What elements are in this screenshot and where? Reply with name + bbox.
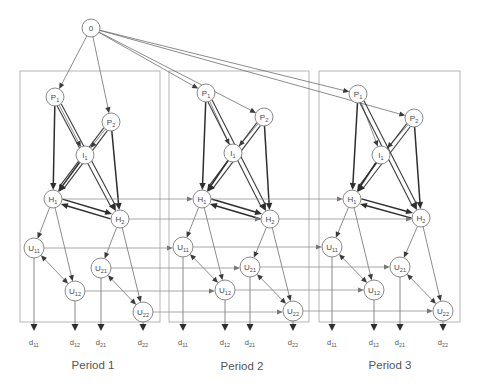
p3-edge-H2-U22 bbox=[423, 227, 439, 297]
p1-edge-U21-U22 bbox=[111, 279, 132, 301]
p1-node-P2: P2 bbox=[102, 113, 120, 131]
p1-node-U21: U21 bbox=[91, 258, 111, 278]
p2-edge-P1-H1 bbox=[203, 102, 206, 184]
carry-over-U11-p1-to-p2-arrowhead bbox=[167, 245, 173, 250]
node-label-subscript: 1 bbox=[233, 153, 236, 159]
output-label-d22: d22 bbox=[438, 338, 448, 348]
p2-edge-H2-U22-arrowhead bbox=[287, 295, 292, 302]
p1-output-arrowhead-d21 bbox=[98, 324, 105, 331]
p1-node-U22: U22 bbox=[133, 302, 153, 322]
p3-node-U22: U22 bbox=[433, 301, 453, 321]
output-label-subscript: 12 bbox=[373, 342, 379, 348]
p2-edge-P2-H2-arrowhead bbox=[266, 203, 272, 210]
p3-edge-H1-U11 bbox=[338, 207, 349, 233]
output-label-subscript: 22 bbox=[292, 342, 298, 348]
p3-node-P1: P1 bbox=[349, 85, 367, 103]
node-label-subscript: 12 bbox=[225, 290, 231, 296]
p3-node-P2: P2 bbox=[405, 109, 423, 127]
p1-output-arrowhead-d12 bbox=[72, 324, 79, 331]
p1-edge-H2-U21 bbox=[106, 227, 116, 254]
p1-node-H1: H1 bbox=[44, 190, 62, 208]
p1-edge-I1-H1 bbox=[62, 162, 80, 187]
p3-edge-U21-U22 bbox=[411, 278, 433, 301]
output-label-subscript: 11 bbox=[33, 342, 39, 348]
p3-edge-P2-H2 bbox=[415, 127, 420, 203]
p1-node-U12: U12 bbox=[65, 281, 85, 301]
p1-edge-P1-H1-arrowhead bbox=[50, 183, 56, 190]
root-node: 0 bbox=[82, 19, 100, 37]
carry-over-H2-p1-to-p2-arrowhead bbox=[255, 216, 261, 221]
p2-node-P2: P2 bbox=[255, 108, 273, 126]
node-label-subscript: 12 bbox=[75, 291, 81, 297]
carry-over-H1-p2-to-p3-arrowhead bbox=[337, 196, 343, 201]
node-label-subscript: 2 bbox=[415, 118, 418, 124]
output-label-subscript: 11 bbox=[331, 342, 337, 348]
p2-edge-H1-U11-arrowhead bbox=[187, 231, 192, 238]
node-label-subscript: 11 bbox=[183, 247, 189, 253]
period-3-box bbox=[319, 71, 460, 322]
output-label-subscript: 21 bbox=[249, 342, 255, 348]
p1-edge-P2-H2-arrowhead bbox=[115, 203, 121, 210]
p3-edge-H1-U12-arrowhead bbox=[368, 274, 373, 281]
p2-edge-H1-U12-arrowhead bbox=[219, 274, 224, 280]
p3-output-arrowhead-d12 bbox=[371, 324, 378, 331]
p2-edge-H2-U22 bbox=[272, 228, 289, 297]
p3-edge-H1-H2-forward bbox=[361, 199, 407, 212]
p3-edge-P1-I1 bbox=[361, 102, 376, 141]
p1-node-P1: P1 bbox=[46, 88, 64, 106]
root-to-p1-P2-edge-arrowhead bbox=[105, 107, 110, 113]
output-label-d12: d12 bbox=[70, 338, 80, 348]
p1-edge-P2-H2 bbox=[112, 131, 119, 204]
period-2-edges bbox=[180, 100, 297, 331]
carry-over-U22-p2-to-p3-arrowhead bbox=[427, 308, 433, 313]
p3-edge-H1-U12 bbox=[354, 208, 370, 276]
p2-edge-H1-U11 bbox=[189, 207, 199, 233]
p1-edge-P1-I1 bbox=[59, 105, 79, 143]
node-label-subscript: 12 bbox=[374, 290, 380, 296]
p2-node-H2: H2 bbox=[261, 210, 279, 228]
output-label-d21: d21 bbox=[245, 338, 255, 348]
output-label-subscript: 22 bbox=[142, 342, 148, 348]
node-label-subscript: 21 bbox=[250, 267, 256, 273]
period-2-label: Period 2 bbox=[221, 360, 264, 372]
node-label-subscript: 2 bbox=[112, 122, 115, 128]
p3-edge-H1-H2-backward bbox=[366, 206, 412, 219]
p2-edge-P2-H2 bbox=[265, 126, 270, 204]
output-label-d11: d11 bbox=[178, 338, 188, 348]
p2-edge-U11-U12 bbox=[194, 258, 215, 280]
output-label-subscript: 21 bbox=[399, 342, 405, 348]
p1-edge-H1-U12-arrowhead bbox=[69, 275, 74, 282]
edges bbox=[31, 30, 447, 331]
p3-edge-P2-H2-arrowhead bbox=[417, 202, 423, 209]
node-label-subscript: 11 bbox=[34, 248, 40, 254]
period-1-nodes: P1P2I1H1H2U11U12U21U22 bbox=[24, 88, 153, 322]
node-label-subscript: 22 bbox=[443, 311, 449, 317]
node-label-subscript: 1 bbox=[56, 97, 59, 103]
p3-output-arrowhead-d11 bbox=[329, 324, 336, 331]
p3-node-H1: H1 bbox=[343, 190, 361, 208]
p2-output-arrowhead-d21 bbox=[247, 324, 254, 331]
p3-node-U11: U11 bbox=[322, 237, 342, 257]
period-1-label: Period 1 bbox=[72, 359, 115, 371]
p3-edge-P1-H1 bbox=[353, 103, 358, 184]
p2-edge-H2-U21 bbox=[256, 227, 267, 253]
output-label-d21: d21 bbox=[395, 338, 405, 348]
p3-node-I1: I1 bbox=[372, 146, 390, 164]
p2-output-arrowhead-d11 bbox=[180, 324, 187, 331]
p3-edge-U11-U12 bbox=[343, 258, 364, 280]
p1-node-U11: U11 bbox=[24, 238, 44, 258]
node-label-subscript: 1 bbox=[359, 94, 362, 100]
node-label-subscript: 21 bbox=[101, 268, 107, 274]
p1-edge-H1-U11-arrowhead bbox=[37, 232, 42, 239]
p3-edge-H1-H2-backward-arrowhead bbox=[360, 203, 368, 209]
p1-edge-H2-U22 bbox=[122, 228, 139, 298]
p2-edge-H1-U12 bbox=[204, 208, 221, 276]
output-label-d22: d22 bbox=[288, 338, 298, 348]
p1-output-arrowhead-d22 bbox=[140, 324, 147, 331]
carry-over-U21-p1-to-p2-arrowhead bbox=[234, 265, 240, 270]
p2-edge-I1-H1 bbox=[210, 161, 228, 187]
p3-output-arrowhead-d21 bbox=[397, 324, 404, 331]
output-label-subscript: 22 bbox=[442, 342, 448, 348]
carry-over-U22-p1-to-p2-arrowhead bbox=[277, 309, 283, 314]
node-label-subscript: 1 bbox=[203, 199, 206, 205]
